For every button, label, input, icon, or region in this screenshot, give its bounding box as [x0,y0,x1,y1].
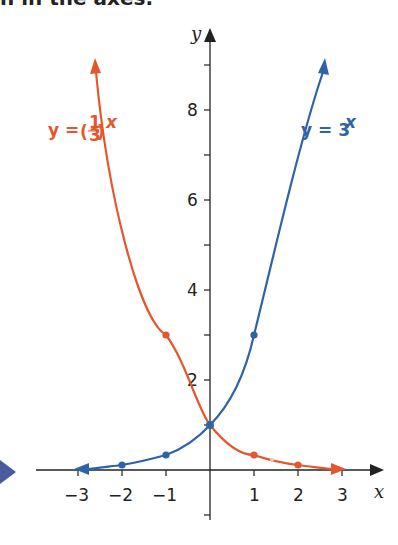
arrow-up-icon [318,58,329,75]
pointer-triangle-icon [0,460,16,484]
svg-text:x: x [105,112,118,132]
x-axis-label: x [374,481,384,502]
y-tick-label: 8 [187,100,198,120]
y-tick-label: 4 [187,280,198,300]
arrow-up-icon [90,58,101,74]
y-axis-label: y [190,23,202,44]
x-tick-label: −3 [64,485,89,505]
svg-text:x: x [344,112,357,132]
svg-text:): ) [97,122,105,142]
arrow-left-icon [74,463,89,475]
y-tick-label: 6 [187,190,198,210]
exponential-chart: −3 −2 −1 1 2 3 2 4 6 8 x y y = ( 1 3 ) x [0,0,398,545]
smudge-mark [270,458,274,462]
svg-text:y =: y = [48,120,79,140]
y-axis [204,28,216,520]
legend-one-third-power-x: y = ( 1 3 ) x [48,112,118,145]
x-tick-label: 1 [249,485,260,505]
x-tick-label: −1 [152,485,177,505]
y-ticks [204,65,210,515]
svg-text:(: ( [80,122,88,142]
x-tick-label: 3 [337,485,348,505]
svg-text:y = 3: y = 3 [301,120,350,140]
x-tick-label: 2 [293,485,304,505]
arrow-right-icon [331,463,346,475]
x-tick-label: −2 [108,485,133,505]
